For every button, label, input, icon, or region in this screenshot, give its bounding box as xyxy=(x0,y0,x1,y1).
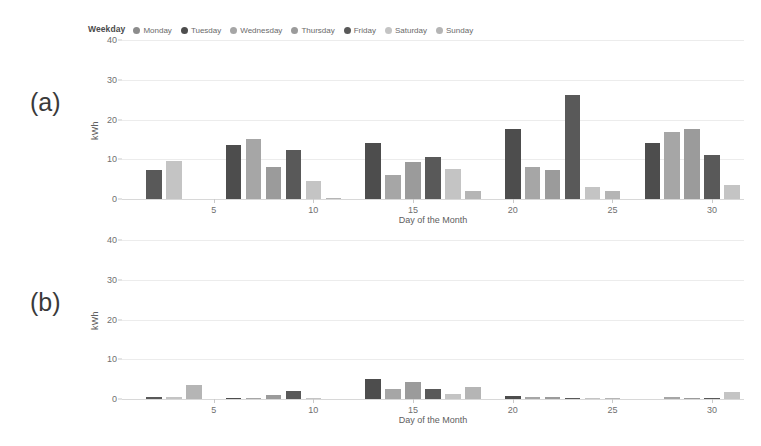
legend-item-label: Saturday xyxy=(395,26,427,35)
y-axis-tick-label: 10 xyxy=(107,354,117,364)
x-axis-tick-mark xyxy=(712,199,713,203)
y-axis-tick-label: 20 xyxy=(107,115,117,125)
chart-panel-a: 010203040 51015202530 Day of the Month xyxy=(96,40,744,200)
bar[interactable] xyxy=(724,392,740,399)
legend-swatch-icon xyxy=(385,27,392,34)
legend-swatch-icon xyxy=(291,27,298,34)
legend-title: Weekday xyxy=(88,24,125,34)
bar[interactable] xyxy=(505,129,521,199)
panel-label-b: (b) xyxy=(30,288,61,317)
legend-item-friday[interactable]: Friday xyxy=(344,26,376,35)
bar[interactable] xyxy=(226,145,242,199)
bar[interactable] xyxy=(545,170,561,199)
legend-item-monday[interactable]: Monday xyxy=(133,26,171,35)
legend-item-wednesday[interactable]: Wednesday xyxy=(230,26,282,35)
bar-series-b xyxy=(122,240,744,399)
bar[interactable] xyxy=(525,167,541,199)
bar[interactable] xyxy=(166,161,182,199)
x-axis-tick-label: 5 xyxy=(211,205,216,215)
legend-item-label: Wednesday xyxy=(240,26,282,35)
bar[interactable] xyxy=(425,389,441,399)
x-axis-tick-mark xyxy=(513,199,514,203)
x-axis-label-b: Day of the Month xyxy=(122,415,744,425)
bar[interactable] xyxy=(286,391,302,399)
bar[interactable] xyxy=(465,387,481,399)
bar[interactable] xyxy=(246,139,262,199)
bar[interactable] xyxy=(405,382,421,399)
x-axis-tick-label: 20 xyxy=(508,405,518,415)
x-axis-tick-mark xyxy=(313,399,314,403)
legend-item-saturday[interactable]: Saturday xyxy=(385,26,427,35)
x-axis-tick-label: 25 xyxy=(607,205,617,215)
x-axis-tick-label: 30 xyxy=(707,405,717,415)
bar[interactable] xyxy=(306,181,322,199)
bar[interactable] xyxy=(645,143,661,199)
x-axis-tick-mark xyxy=(513,399,514,403)
bar[interactable] xyxy=(425,157,441,199)
x-axis-tick-mark xyxy=(612,399,613,403)
y-axis-tick-label: 0 xyxy=(112,194,117,204)
x-axis-tick-label: 10 xyxy=(308,205,318,215)
bar[interactable] xyxy=(286,150,302,199)
bar[interactable] xyxy=(385,175,401,199)
bar[interactable] xyxy=(146,170,162,199)
y-axis-tick-label: 30 xyxy=(107,275,117,285)
bar[interactable] xyxy=(585,187,601,199)
chart-panel-b: 010203040 51015202530 Day of the Month xyxy=(96,240,744,400)
x-axis-tick-mark xyxy=(413,199,414,203)
legend-item-label: Sunday xyxy=(446,26,473,35)
x-axis-tick-mark xyxy=(712,399,713,403)
legend-swatch-icon xyxy=(133,27,140,34)
y-axis-tick-label: 40 xyxy=(107,35,117,45)
legend-item-tuesday[interactable]: Tuesday xyxy=(181,26,221,35)
bar[interactable] xyxy=(365,143,381,199)
y-axis-tick-label: 10 xyxy=(107,154,117,164)
plot-area-a: 010203040 51015202530 Day of the Month xyxy=(122,40,744,200)
x-axis-tick-label: 30 xyxy=(707,205,717,215)
legend-swatch-icon xyxy=(344,27,351,34)
bar[interactable] xyxy=(684,129,700,199)
legend-item-label: Thursday xyxy=(301,26,334,35)
legend-item-sunday[interactable]: Sunday xyxy=(436,26,473,35)
bar[interactable] xyxy=(365,379,381,399)
bar[interactable] xyxy=(405,162,421,199)
y-axis-tick-label: 0 xyxy=(112,394,117,404)
x-axis-tick-mark xyxy=(313,199,314,203)
bar[interactable] xyxy=(465,191,481,199)
legend-item-thursday[interactable]: Thursday xyxy=(291,26,334,35)
x-axis-tick-label: 5 xyxy=(211,405,216,415)
x-axis-tick-label: 25 xyxy=(607,405,617,415)
y-axis-tick-label: 20 xyxy=(107,315,117,325)
x-axis-tick-mark xyxy=(214,199,215,203)
y-axis-tick-label: 40 xyxy=(107,235,117,245)
legend-item-label: Tuesday xyxy=(191,26,221,35)
bar[interactable] xyxy=(724,185,740,199)
x-axis-tick-mark xyxy=(413,399,414,403)
bar[interactable] xyxy=(664,132,680,199)
bar[interactable] xyxy=(445,169,461,199)
bar[interactable] xyxy=(186,385,202,399)
y-axis-tick-label: 30 xyxy=(107,75,117,85)
x-axis-tick-mark xyxy=(214,399,215,403)
bar-series-a xyxy=(122,40,744,199)
plot-area-b: 010203040 51015202530 Day of the Month xyxy=(122,240,744,400)
bar[interactable] xyxy=(605,191,621,199)
x-axis-label-a: Day of the Month xyxy=(122,215,744,225)
x-axis-tick-label: 10 xyxy=(308,405,318,415)
panel-label-a: (a) xyxy=(30,88,61,117)
legend-swatch-icon xyxy=(181,27,188,34)
legend-items: MondayTuesdayWednesdayThursdayFridaySatu… xyxy=(133,20,482,38)
x-axis-tick-label: 20 xyxy=(508,205,518,215)
legend-swatch-icon xyxy=(230,27,237,34)
x-axis-tick-label: 15 xyxy=(408,205,418,215)
x-axis-tick-mark xyxy=(612,199,613,203)
weekday-legend: Weekday MondayTuesdayWednesdayThursdayFr… xyxy=(88,22,482,36)
legend-item-label: Friday xyxy=(354,26,376,35)
bar[interactable] xyxy=(266,167,282,199)
legend-swatch-icon xyxy=(436,27,443,34)
bar[interactable] xyxy=(565,95,581,199)
bar[interactable] xyxy=(385,389,401,399)
bar[interactable] xyxy=(704,155,720,199)
x-axis-tick-label: 15 xyxy=(408,405,418,415)
legend-item-label: Monday xyxy=(143,26,171,35)
